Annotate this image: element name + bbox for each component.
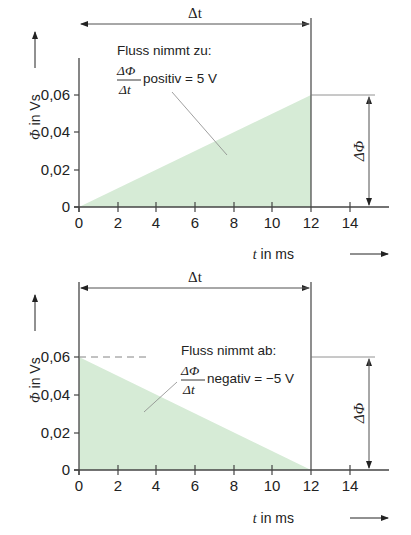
x-tick-label: 0 bbox=[75, 214, 83, 231]
y-tick-label: 0,02 bbox=[41, 161, 70, 178]
y-tick-label: 0 bbox=[62, 461, 70, 478]
y-ticks bbox=[74, 95, 79, 207]
x-tick-label: 12 bbox=[303, 214, 320, 231]
fraction-denominator: Δt bbox=[182, 382, 196, 397]
svg-text:Φ in Vs: Φ in Vs bbox=[27, 94, 43, 140]
annotation-result: negativ = −5 V bbox=[207, 371, 294, 386]
fraction-numerator: ΔΦ bbox=[180, 363, 199, 378]
x-tick-label: 14 bbox=[342, 477, 359, 494]
x-tick-label: 10 bbox=[264, 477, 281, 494]
fraction-numerator: ΔΦ bbox=[116, 63, 135, 78]
annotation-leader bbox=[172, 92, 227, 155]
x-tick-label: 6 bbox=[191, 214, 199, 231]
annotation-heading: Fluss nimmt zu: bbox=[117, 43, 212, 58]
x-axis-label: t in ms bbox=[253, 510, 294, 526]
y-tick-label: 0,04 bbox=[41, 123, 70, 140]
y-ticks bbox=[74, 357, 79, 470]
y-tick-label: 0 bbox=[62, 198, 70, 215]
annotation-heading: Fluss nimmt ab: bbox=[181, 343, 276, 358]
delta-phi-label: ΔΦ bbox=[351, 402, 367, 424]
y-tick-label: 0,06 bbox=[41, 86, 70, 103]
delta-t-label: Δt bbox=[188, 269, 203, 285]
x-tick-label: 4 bbox=[152, 214, 160, 231]
x-tick-label: 6 bbox=[191, 477, 199, 494]
x-tick-label: 8 bbox=[230, 477, 238, 494]
y-tick-label: 0,02 bbox=[41, 424, 70, 441]
x-tick-label: 14 bbox=[342, 214, 359, 231]
x-tick-label: 8 bbox=[230, 214, 238, 231]
x-tick-label: 10 bbox=[264, 214, 281, 231]
x-tick-label: 2 bbox=[114, 477, 122, 494]
y-unit: in Vs bbox=[27, 94, 43, 129]
x-tick-label: 0 bbox=[75, 477, 83, 494]
x-tick-label: 12 bbox=[303, 477, 320, 494]
x-axis-label: t in ms bbox=[253, 246, 294, 262]
figure: 0 0,02 0,04 0,06 0 2 4 6 8 10 12 14 Δt bbox=[0, 0, 411, 535]
y-tick-label: 0,06 bbox=[41, 348, 70, 365]
phi-symbol: Φ bbox=[28, 129, 43, 140]
fraction-denominator: Δt bbox=[118, 82, 132, 97]
delta-phi-label: ΔΦ bbox=[351, 140, 367, 162]
annotation-result: positiv = 5 V bbox=[143, 71, 217, 86]
x-tick-label: 4 bbox=[152, 477, 160, 494]
chart-flux-decreasing: 0 0,02 0,04 0,06 0 2 4 6 8 10 12 14 Δt Δ… bbox=[27, 269, 389, 526]
chart-flux-increasing: 0 0,02 0,04 0,06 0 2 4 6 8 10 12 14 Δt bbox=[27, 5, 389, 262]
flux-area-increasing bbox=[79, 95, 311, 207]
y-tick-label: 0,04 bbox=[41, 386, 70, 403]
x-tick-label: 2 bbox=[114, 214, 122, 231]
svg-text:Φ in Vs: Φ in Vs bbox=[27, 357, 43, 403]
delta-t-label: Δt bbox=[188, 5, 203, 21]
